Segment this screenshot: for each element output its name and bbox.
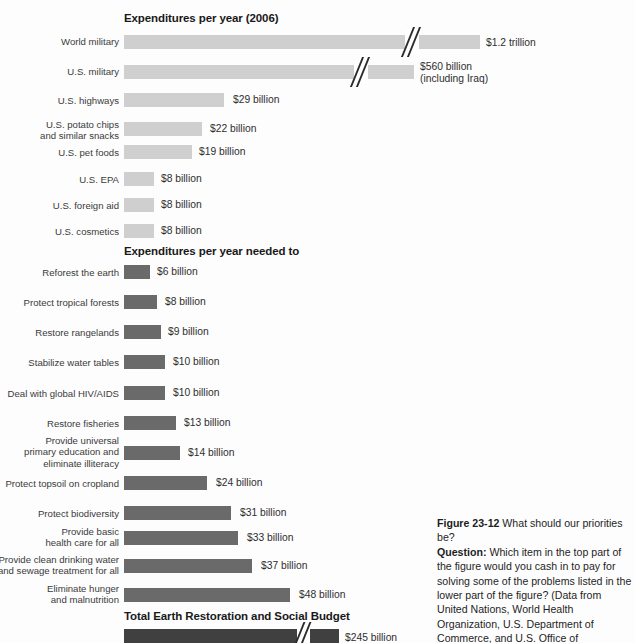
bar-value-reforest-the-earth: $6 billion <box>157 266 198 278</box>
axis-break-mask-us-military <box>354 60 368 84</box>
bar-value-world-military: $1.2 trillion <box>486 37 536 49</box>
row-label-protect-biodiversity: Protect biodiversity <box>0 508 119 519</box>
bar-stabilize-water-tables <box>124 355 165 369</box>
bar-protect-tropical-forests <box>124 295 157 309</box>
row-label-protect-topsoil: Protect topsoil on cropland <box>0 478 119 489</box>
bar-restore-rangelands <box>124 325 161 339</box>
bar-value-provide-clean-drinking-water: $37 billion <box>261 560 307 572</box>
bar-value-stabilize-water-tables: $10 billion <box>173 356 219 368</box>
bar-value-protect-topsoil: $24 billion <box>216 477 262 489</box>
figure-23-12: Expenditures per year (2006) World milit… <box>0 0 635 643</box>
bar-reforest-the-earth <box>124 265 150 279</box>
axis-break-mask-total <box>297 626 310 643</box>
bar-value-us-cosmetics: $8 billion <box>161 225 202 237</box>
row-label-restore-rangelands: Restore rangelands <box>0 327 119 338</box>
bar-value-us-highways: $29 billion <box>233 94 279 106</box>
row-label-us-cosmetics: U.S. cosmetics <box>0 226 119 237</box>
total-section-title: Total Earth Restoration and Social Budge… <box>124 610 350 622</box>
bar-deal-with-global-hiv-aids <box>124 386 165 400</box>
row-label-us-military: U.S. military <box>0 66 119 77</box>
bar-provide-clean-drinking-water <box>124 559 252 573</box>
bar-protect-topsoil <box>124 476 207 490</box>
row-label-reforest-the-earth: Reforest the earth <box>0 267 119 278</box>
bar-us-cosmetics <box>124 224 154 238</box>
bar-value-us-military: $560 billion (including Iraq) <box>420 61 488 85</box>
bar-value-total-earth-restoration: $245 billion <box>345 632 397 643</box>
bar-value-us-epa: $8 billion <box>161 173 202 185</box>
bar-value-protect-tropical-forests: $8 billion <box>165 296 206 308</box>
bar-value-us-foreign-aid: $8 billion <box>161 199 202 211</box>
bar-restore-fisheries <box>124 416 176 430</box>
bar-value-deal-with-global-hiv-aids: $10 billion <box>173 387 219 399</box>
bar-world-military <box>124 35 480 49</box>
row-label-provide-universal-education: Provide universal primary education and … <box>0 435 119 469</box>
bar-value-restore-rangelands: $9 billion <box>168 326 209 338</box>
row-label-us-foreign-aid: U.S. foreign aid <box>0 200 119 211</box>
caption-question-text: Which item in the top part of the figure… <box>437 546 631 643</box>
bar-value-us-potato-chips: $22 billion <box>210 123 256 135</box>
row-label-eliminate-hunger: Eliminate hunger and malnutrition <box>0 583 119 606</box>
caption-figure-number: Figure 23-12 <box>437 517 499 529</box>
top-section-title: Expenditures per year (2006) <box>124 12 278 24</box>
row-label-us-epa: U.S. EPA <box>0 174 119 185</box>
caption-question-label: Question: <box>437 546 486 558</box>
bar-us-military <box>124 65 414 79</box>
bar-value-us-pet-foods: $19 billion <box>199 146 245 158</box>
bar-value-provide-basic-health-care: $33 billion <box>247 532 293 544</box>
row-label-deal-with-global-hiv-aids: Deal with global HIV/AIDS <box>0 388 119 399</box>
axis-break-mask-world-military <box>405 30 419 54</box>
figure-caption: Figure 23-12 What should our priorities … <box>437 516 633 643</box>
bar-provide-basic-health-care <box>124 531 238 545</box>
row-label-us-pet-foods: U.S. pet foods <box>0 147 119 158</box>
row-label-protect-tropical-forests: Protect tropical forests <box>0 297 119 308</box>
bar-us-epa <box>124 172 154 186</box>
row-label-us-highways: U.S. highways <box>0 95 119 106</box>
bar-us-highways <box>124 93 224 107</box>
bar-us-foreign-aid <box>124 198 154 212</box>
row-label-restore-fisheries: Restore fisheries <box>0 418 119 429</box>
bar-us-pet-foods <box>124 145 192 159</box>
bar-value-provide-universal-education: $14 billion <box>188 447 234 459</box>
row-label-world-military: World military <box>0 36 119 47</box>
row-label-provide-basic-health-care: Provide basic health care for all <box>0 526 119 549</box>
bar-value-protect-biodiversity: $31 billion <box>240 507 286 519</box>
bar-eliminate-hunger <box>124 588 290 602</box>
bar-provide-universal-education <box>124 446 180 460</box>
bar-us-potato-chips <box>124 122 202 136</box>
bar-value-eliminate-hunger: $48 billion <box>299 589 345 601</box>
bar-protect-biodiversity <box>124 506 231 520</box>
bar-value-restore-fisheries: $13 billion <box>184 417 230 429</box>
row-label-provide-clean-drinking-water: Provide clean drinking water and sewage … <box>0 554 119 577</box>
row-label-stabilize-water-tables: Stabilize water tables <box>0 357 119 368</box>
row-label-us-potato-chips: U.S. potato chips and similar snacks <box>0 119 119 142</box>
bottom-section-title: Expenditures per year needed to <box>124 245 299 257</box>
